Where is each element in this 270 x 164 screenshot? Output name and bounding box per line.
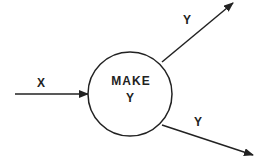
output-label-upper: Y	[183, 13, 191, 27]
output-label-lower: Y	[194, 115, 202, 129]
process-label-line2: Y	[126, 91, 134, 105]
input-flow: X	[15, 76, 88, 94]
output-flow-upper: Y	[162, 3, 233, 62]
process-label-line1: MAKE	[111, 74, 150, 88]
input-label: X	[37, 76, 45, 90]
output-flow-lower: Y	[162, 115, 253, 155]
output-arrow-lower	[162, 125, 253, 155]
process-diagram: X MAKE Y Y Y	[0, 0, 270, 164]
output-arrow-upper	[162, 3, 233, 62]
process-node: MAKE Y	[88, 52, 172, 136]
